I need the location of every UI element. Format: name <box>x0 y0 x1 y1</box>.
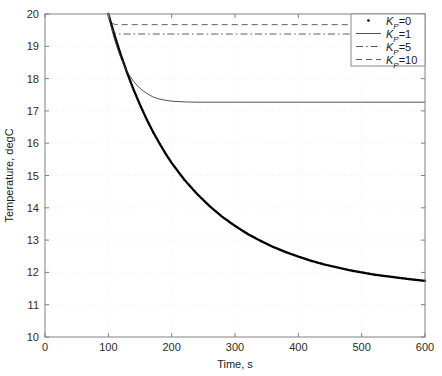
x-tick-label: 0 <box>42 341 48 353</box>
y-tick-label: 14 <box>27 202 39 214</box>
y-tick-label: 18 <box>27 73 39 85</box>
legend: KP=0KP=1KP=5KP=10 <box>351 14 425 70</box>
y-tick-label: 20 <box>27 8 39 20</box>
x-tick-label: 500 <box>352 341 370 353</box>
chart-plot: 0100200300400500600101112131415161718192… <box>0 0 442 376</box>
y-tick-label: 13 <box>27 234 39 246</box>
x-tick-label: 200 <box>162 341 180 353</box>
x-tick-label: 100 <box>99 341 117 353</box>
x-tick-label: 300 <box>226 341 244 353</box>
y-tick-label: 17 <box>27 105 39 117</box>
y-tick-label: 12 <box>27 266 39 278</box>
x-tick-label: 400 <box>289 341 307 353</box>
y-tick-label: 16 <box>27 137 39 149</box>
figure-canvas: 0100200300400500600101112131415161718192… <box>0 0 442 376</box>
y-tick-label: 15 <box>27 170 39 182</box>
x-axis-title: Time, s <box>217 358 253 370</box>
y-tick-label: 19 <box>27 40 39 52</box>
y-axis-title: Temperature, degC <box>3 128 15 222</box>
legend-marker-dot <box>367 19 370 22</box>
y-tick-label: 10 <box>27 331 39 343</box>
y-tick-label: 11 <box>28 299 39 311</box>
x-tick-label: 600 <box>416 341 434 353</box>
